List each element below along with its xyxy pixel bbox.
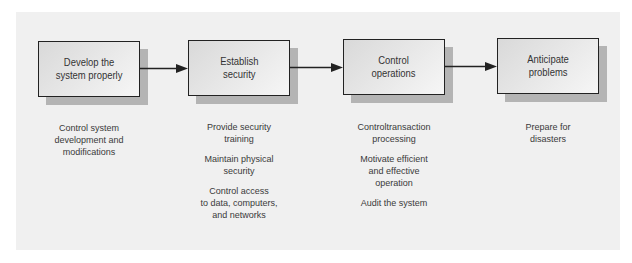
action-item: Audit the system (334, 197, 454, 209)
action-item: Control access to data, computers, and n… (179, 185, 299, 221)
action-item: Provide security training (179, 121, 299, 145)
arrow-1-to-2 (140, 64, 188, 73)
arrowhead-icon (176, 64, 188, 73)
arrowhead-icon (331, 63, 343, 72)
action-item: Control system development and modificat… (29, 122, 149, 158)
step-4-actions: Prepare for disasters (483, 121, 613, 153)
arrowhead-icon (485, 62, 497, 71)
step-3-actions: Controltransaction processing Motivate e… (329, 121, 459, 217)
step-1-actions: Control system development and modificat… (24, 122, 154, 166)
arrow-2-to-3 (290, 63, 343, 72)
arrow-3-to-4 (445, 62, 497, 71)
step-2-actions: Provide security training Maintain physi… (174, 121, 304, 229)
action-item: Prepare for disasters (488, 121, 608, 145)
action-item: Controltransaction processing (334, 121, 454, 145)
action-item: Maintain physical security (179, 153, 299, 177)
action-item: Motivate efficient and effective operati… (334, 153, 454, 189)
